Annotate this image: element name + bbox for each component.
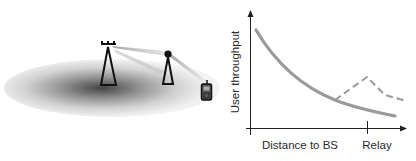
series-with-relay (335, 77, 406, 101)
series-without-relay (256, 30, 395, 116)
relay-diagram (0, 0, 416, 161)
y-axis-label: User throughput (230, 31, 242, 113)
y-axis-arrow-icon (248, 10, 254, 17)
x-axis-label: Distance to BS (262, 140, 338, 152)
chart-axes (246, 10, 407, 135)
x-axis-arrow-icon (400, 126, 407, 132)
relay-tick-label: Relay (362, 140, 391, 152)
